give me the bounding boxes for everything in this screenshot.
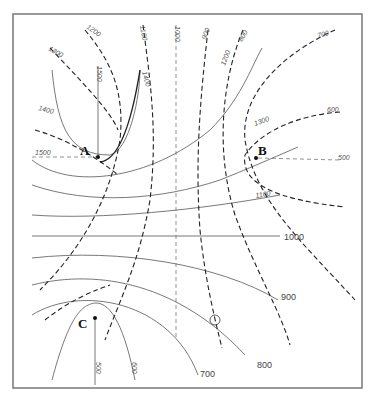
solid-contour-c — [52, 303, 135, 380]
label-1000-mid: 1000 — [284, 232, 304, 242]
point-a-label: A — [80, 143, 90, 158]
solid-contour-1200 — [32, 48, 262, 177]
label-1500-left: 1500 — [35, 149, 51, 156]
solid-contour-a-inner — [52, 70, 140, 155]
label-1100-mid: 1100 — [255, 189, 271, 199]
label-800-bottom: 800 — [257, 360, 272, 370]
label-600-c: 600 — [131, 362, 138, 374]
solid-contour-800 — [32, 279, 245, 355]
point-b-label: B — [258, 143, 267, 158]
point-c-marker — [93, 316, 97, 320]
label-900-top: 900 — [200, 27, 211, 40]
label-1300-right: 1300 — [253, 115, 270, 127]
contour-diagram: A B C 1300 1200 1100 1000 900 1200 800 7… — [0, 0, 374, 399]
label-1200-right: 1200 — [219, 49, 231, 66]
solid-contour-1100 — [32, 195, 280, 216]
label-1000-top: 1000 — [174, 26, 181, 42]
label-1200-top: 1200 — [85, 23, 102, 38]
dashed-contour-1300 — [50, 48, 118, 130]
label-1100-top: 1100 — [139, 25, 149, 41]
point-c-label: C — [78, 316, 87, 331]
label-1300-top: 1300 — [48, 45, 65, 59]
label-500-b: 500 — [338, 154, 350, 161]
dashed-contour-900 — [198, 30, 222, 348]
label-1400-left: 1400 — [38, 104, 55, 115]
label-800-top: 800 — [237, 29, 249, 43]
label-1400-a: 1400 — [141, 70, 152, 87]
label-1500-a: 1500 — [96, 66, 103, 82]
point-a-marker — [96, 155, 100, 159]
map-frame — [13, 14, 362, 388]
label-700-top: 700 — [316, 29, 329, 39]
dashed-contour-800 — [223, 30, 290, 345]
label-900-br: 900 — [281, 292, 296, 302]
dashed-contour-700 — [245, 30, 355, 300]
label-700-bottom: 700 — [200, 369, 215, 379]
label-600: 600 — [327, 106, 339, 113]
dashed-contour-1200 — [40, 30, 121, 290]
solid-contour-900 — [32, 255, 278, 300]
label-500-c: 500 — [95, 362, 102, 374]
